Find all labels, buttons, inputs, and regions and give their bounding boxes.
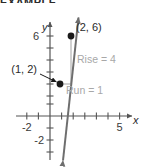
rise-annotation-label: Rise = 4: [77, 53, 116, 65]
graph-figure: EXAMPLE: [0, 0, 148, 168]
point-label-2-6: (2, 6): [76, 21, 102, 33]
clipped-header-text: EXAMPLE: [0, 0, 57, 3]
x-tick-label-neg2: -2: [22, 121, 32, 133]
data-point-1-2: [57, 81, 64, 88]
y-tick-label-neg2: -2: [34, 134, 44, 146]
coordinate-plane-svg: y x 6 -2 -2 5 (2, 6) (1, 2) Rise = 4 Run…: [0, 0, 148, 168]
y-axis-label: y: [41, 21, 49, 33]
y-tick-label-6: 6: [33, 30, 39, 42]
x-axis-label: x: [132, 114, 139, 126]
run-annotation-label: Run = 1: [66, 84, 103, 96]
x-tick-label-5: 5: [117, 121, 123, 133]
rise-run-guide: [60, 36, 71, 84]
point-label-1-2: (1, 2): [11, 63, 37, 75]
point-label-leader-arrow: [40, 74, 57, 82]
data-point-2-6: [68, 33, 75, 40]
